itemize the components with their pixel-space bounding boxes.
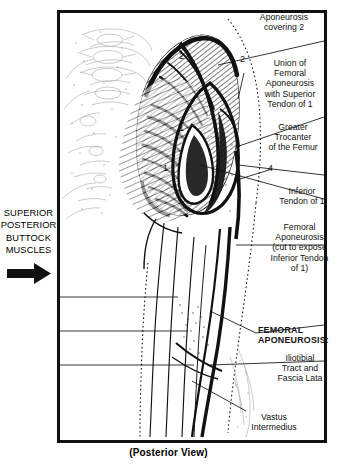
numeral-1-upper: 1 [179, 123, 184, 133]
fem-apo-cut-line-3: (cut to expose [262, 242, 337, 252]
buttock-label-line-4: MUSCLES [0, 244, 57, 256]
fem-apo-cut-line-4: Inferior Tendon [262, 253, 337, 263]
superior-posterior-buttock-muscles-block: SUPERIOR POSTERIOR BUTTOCK MUSCLES [0, 207, 57, 284]
vastus-intermedius-line-1: Vastus [238, 412, 310, 422]
greater-trochanter-line-3: of the Femur [252, 142, 334, 152]
greater-trochanter-line-1: Greater [252, 122, 334, 132]
fem-apo-heading-line-2: APONEUROSIS: [258, 335, 337, 345]
union-line-4: with Superior [250, 89, 330, 99]
inferior-tendon-line-2: Tendon of 1 [268, 196, 336, 206]
union-line-5: Tendon of 1 [250, 99, 330, 109]
label-vastus-intermedius: Vastus Intermedius [238, 412, 310, 432]
union-line-2: Femoral [250, 68, 330, 78]
label-iliotibial-tract: Iliotibial Tract and Fascia Lata [264, 353, 336, 384]
fem-apo-cut-line-1: Femoral [262, 222, 337, 232]
figure-plate: SUPERIOR POSTERIOR BUTTOCK MUSCLES Vastu… [0, 0, 337, 469]
fem-apo-heading-line-1: FEMORAL [258, 325, 337, 335]
figure-caption: (Posterior View) [0, 447, 337, 458]
numeral-2-upper: 2 [179, 51, 184, 61]
iliotibial-line-3: Fascia Lata [264, 373, 336, 383]
leader-lines-left [60, 297, 194, 365]
label-greater-trochanter: Greater Trocanter of the Femur [252, 122, 334, 153]
vastus-intermedius-line-2: Intermedius [238, 422, 310, 432]
union-line-1: Union of [250, 58, 330, 68]
numeral-4: 4 [268, 163, 273, 173]
fem-apo-cut-line-2: Aponeurosis [262, 232, 337, 242]
popliteal-stipple [179, 304, 209, 354]
numeral-1-lower: 1 [163, 163, 168, 173]
fem-apo-cut-line-5: of 1) [262, 263, 337, 273]
label-inferior-tendon-of-1: Inferior Tendon of 1 [268, 186, 336, 206]
greater-trochanter-line-2: Trocanter [252, 132, 334, 142]
iliotibial-line-2: Tract and [264, 363, 336, 373]
aponeurosis-covering-2-line-2: covering 2 [240, 22, 328, 32]
union-line-3: Aponeurosis [250, 78, 330, 88]
femoral-aponeurosis-lines [144, 213, 230, 437]
buttock-label-line-3: BUTTOCK [0, 232, 57, 244]
arrow-right-icon [0, 263, 57, 284]
aponeurosis-covering-2-line-1: Aponeurosis [240, 12, 328, 22]
label-union-femoral-aponeurosis: Union of Femoral Aponeurosis with Superi… [250, 58, 330, 109]
label-femoral-aponeurosis-heading: FEMORAL APONEUROSIS: [258, 325, 337, 345]
buttock-label-line-1: SUPERIOR [0, 207, 57, 219]
inferior-tendon-line-1: Inferior [268, 186, 336, 196]
buttock-label-line-2: POSTERIOR [0, 219, 57, 231]
numeral-2-right: 2 [240, 54, 245, 64]
iliotibial-line-1: Iliotibial [264, 353, 336, 363]
label-aponeurosis-covering-2: Aponeurosis covering 2 [240, 12, 328, 32]
label-femoral-aponeurosis-cut: Femoral Aponeurosis (cut to expose Infer… [262, 222, 337, 273]
